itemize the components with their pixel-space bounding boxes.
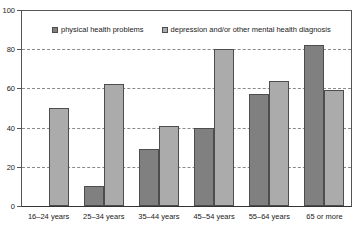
bar-group [297, 10, 352, 206]
y-axis-tick-label: 0 [0, 203, 15, 211]
bar[interactable] [49, 108, 69, 206]
bar-groups [21, 10, 352, 206]
x-axis-tick-label: 65 or more [297, 212, 352, 221]
bar[interactable] [249, 94, 269, 206]
x-axis-tick-label: 35–44 years [131, 212, 186, 221]
bar[interactable] [159, 126, 179, 206]
bar-group [76, 10, 131, 206]
x-axis-tick-label: 45–54 years [187, 212, 242, 221]
y-axis-tick-label: 60 [0, 85, 15, 93]
bar-group [242, 10, 297, 206]
bar[interactable] [139, 149, 159, 206]
y-axis-tick-label: 20 [0, 163, 15, 171]
bar[interactable] [269, 81, 289, 206]
x-axis-tick-label: 25–34 years [76, 212, 131, 221]
x-axis-labels: 16–24 years25–34 years35–44 years45–54 y… [21, 212, 352, 221]
bar-group [131, 10, 186, 206]
y-axis-tick-label: 40 [0, 124, 15, 132]
bar-group [187, 10, 242, 206]
bar-group [21, 10, 76, 206]
y-axis-tick-label: 80 [0, 46, 15, 54]
bar[interactable] [214, 49, 234, 206]
x-axis-tick-label: 16–24 years [21, 212, 76, 221]
bar[interactable] [104, 84, 124, 206]
bar[interactable] [84, 186, 104, 206]
bar[interactable] [194, 128, 214, 206]
bar[interactable] [304, 45, 324, 206]
y-axis-tick [17, 206, 22, 207]
y-axis-tick-label: 100 [0, 7, 15, 15]
bar[interactable] [324, 90, 344, 206]
bar-chart: 020406080100 physical health problems de… [0, 0, 360, 233]
x-axis-tick-label: 55–64 years [242, 212, 297, 221]
